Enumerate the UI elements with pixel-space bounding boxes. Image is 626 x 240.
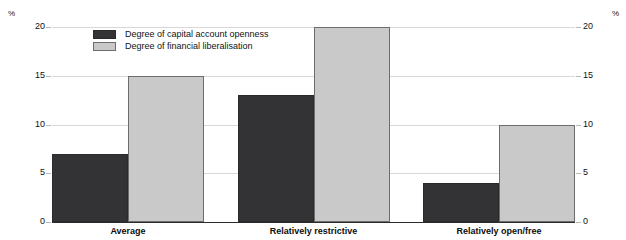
y-axis-unit-left: % (8, 10, 15, 18)
y-axis-tick-label-right: 15 (583, 71, 593, 80)
y-axis-tick-left (46, 76, 51, 77)
y-axis-tick-left (46, 222, 51, 223)
x-axis-baseline (52, 222, 575, 223)
y-axis-tick-right (576, 76, 581, 77)
x-axis-category-label: Relatively restrictive (238, 227, 390, 236)
y-axis-tick-label-left: 15 (35, 71, 45, 80)
bar (499, 125, 575, 223)
legend-swatch-icon (93, 30, 116, 39)
y-axis-tick-label-right: 10 (583, 120, 593, 129)
bar (238, 95, 314, 222)
y-axis-tick-left (46, 125, 51, 126)
bar-group: Average (52, 27, 204, 222)
bar (423, 183, 499, 222)
legend-item: Degree of capital account openness (93, 29, 269, 40)
legend-swatch-icon (93, 42, 116, 51)
x-axis-category-label: Average (52, 227, 204, 236)
bar (314, 27, 390, 222)
bar (128, 76, 204, 222)
y-axis-tick-right (576, 27, 581, 28)
legend-item: Degree of financial liberalisation (93, 41, 269, 52)
y-axis-unit-right: % (612, 10, 619, 18)
y-axis-tick-label-right: 0 (583, 217, 588, 226)
y-axis-tick-left (46, 173, 51, 174)
chart-legend: Degree of capital account openness Degre… (93, 29, 269, 53)
y-axis-tick-label-right: 5 (583, 168, 588, 177)
plot-area: 0055101015152020AverageRelatively restri… (52, 27, 575, 222)
x-axis-category-label: Relatively open/free (423, 227, 575, 236)
y-axis-tick-right (576, 173, 581, 174)
y-axis-tick-left (46, 27, 51, 28)
legend-item-label: Degree of capital account openness (125, 30, 269, 39)
bar (52, 154, 128, 222)
bar-group: Relatively open/free (423, 27, 575, 222)
y-axis-tick-label-left: 10 (35, 120, 45, 129)
legend-item-label: Degree of financial liberalisation (125, 42, 253, 51)
y-axis-tick-label-left: 20 (35, 22, 45, 31)
y-axis-tick-right (576, 125, 581, 126)
chart-title-clipped (0, 0, 626, 4)
y-axis-tick-label-left: 0 (40, 217, 45, 226)
y-axis-tick-right (576, 222, 581, 223)
bar-chart: % % 0055101015152020AverageRelatively re… (0, 0, 626, 240)
y-axis-tick-label-right: 20 (583, 22, 593, 31)
bar-group: Relatively restrictive (238, 27, 390, 222)
y-axis-tick-label-left: 5 (40, 168, 45, 177)
